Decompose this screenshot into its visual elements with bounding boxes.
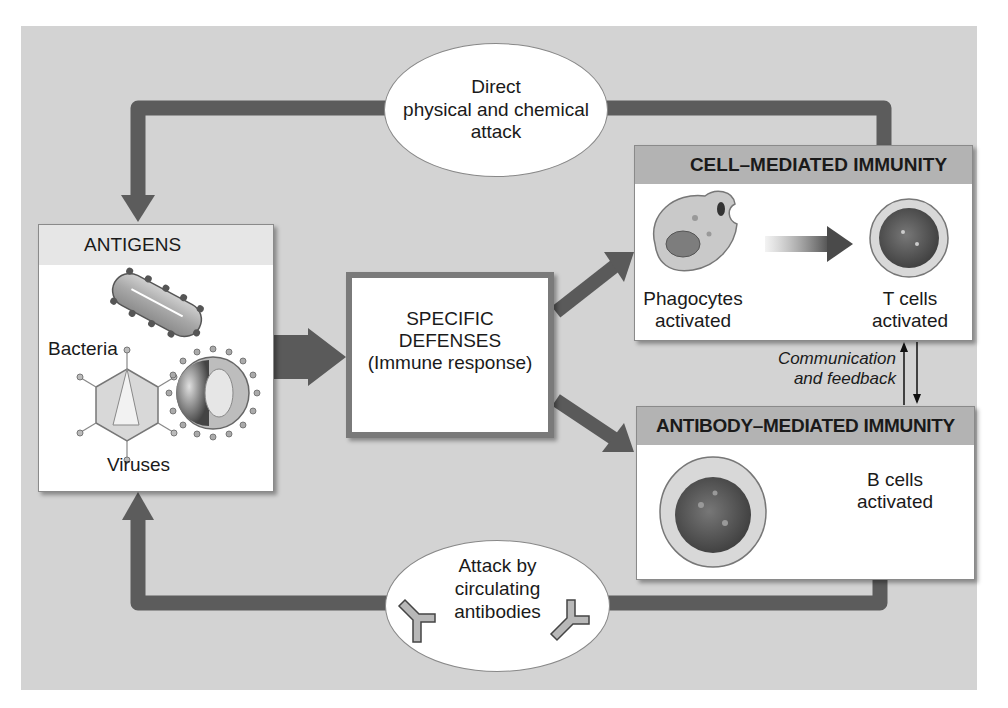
activation-arrow	[765, 226, 853, 262]
communication-label: Communication and feedback	[744, 349, 896, 388]
cell-mediated-title: CELL–MEDIATED IMMUNITY	[635, 146, 972, 184]
b-cells-label: B cells activated	[835, 469, 955, 513]
phagocyte-icon	[654, 191, 737, 270]
adenovirus-icon	[77, 347, 177, 463]
b-cell-icon	[660, 457, 766, 567]
specific-defenses-line-1: SPECIFIC	[352, 308, 548, 330]
antibody-attack-line-3: antibodies	[454, 601, 541, 624]
direct-attack-line-2: physical and chemical	[403, 99, 589, 122]
antigens-to-defenses-arrow	[274, 328, 346, 386]
communication-arrows	[900, 342, 921, 405]
phagocytes-label: Phagocytes activated	[635, 288, 751, 332]
phagocytes-line-2: activated	[635, 310, 751, 332]
direct-attack-line-3: attack	[403, 121, 589, 144]
antibody-attack-line-2: circulating	[454, 578, 541, 601]
specific-defenses-line-3: (Immune response)	[352, 352, 548, 374]
b-cells-line-2: activated	[835, 491, 955, 513]
t-cell-icon	[870, 199, 948, 277]
antibody-mediated-immunity-box: ANTIBODY–MEDIATED IMMUNITY B cells activ…	[636, 406, 975, 580]
enveloped-virus-icon	[166, 346, 260, 440]
defenses-to-cell-mediated-arrow	[556, 252, 634, 312]
antibody-attack-line-1: Attack by	[454, 555, 541, 578]
t-cells-line-1: T cells	[860, 288, 960, 310]
antigens-box: ANTIGENS	[38, 224, 274, 492]
direct-attack-line-1: Direct	[403, 76, 589, 99]
antibody-attack-ellipse: Attack by circulating antibodies	[385, 540, 610, 672]
communication-line-2: and feedback	[744, 369, 896, 389]
phagocytes-line-1: Phagocytes	[635, 288, 751, 310]
cell-mediated-immunity-box: CELL–MEDIATED IMMUNITY Phagocytes	[634, 145, 973, 341]
viruses-label: Viruses	[107, 454, 170, 476]
antibody-mediated-illustrations	[637, 445, 976, 581]
cell-mediated-illustrations	[635, 184, 974, 294]
t-cells-label: T cells activated	[860, 288, 960, 332]
specific-defenses-line-2: DEFENSES	[352, 330, 548, 352]
defenses-to-antibody-mediated-arrow	[556, 400, 634, 452]
b-cells-line-1: B cells	[835, 469, 955, 491]
direct-attack-ellipse: Direct physical and chemical attack	[384, 43, 608, 177]
specific-defenses-box: SPECIFIC DEFENSES (Immune response)	[346, 272, 554, 438]
communication-line-1: Communication	[744, 349, 896, 369]
antigens-title: ANTIGENS	[39, 225, 273, 265]
t-cells-line-2: activated	[860, 310, 960, 332]
bacteria-label: Bacteria	[48, 338, 118, 360]
antibody-mediated-title: ANTIBODY–MEDIATED IMMUNITY	[637, 407, 974, 445]
bacteria-icon	[104, 265, 213, 349]
